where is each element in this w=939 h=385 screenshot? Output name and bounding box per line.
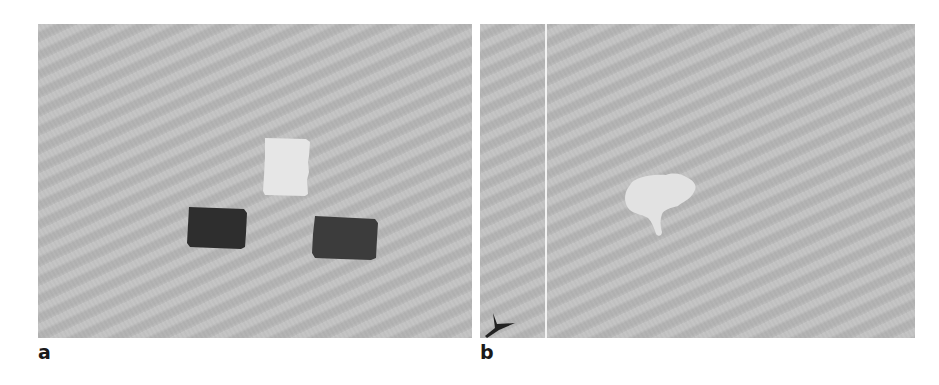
panel-label-b: b (480, 343, 494, 362)
dark-square-left (186, 205, 250, 251)
arrowhead-marker (483, 312, 517, 338)
light-irregular-blob (624, 172, 698, 238)
light-square (262, 136, 314, 198)
panel-a-image (38, 24, 472, 338)
vertical-white-line (545, 24, 547, 338)
panel-label-a: a (38, 343, 51, 362)
panel-b-image (480, 24, 915, 338)
dark-square-right (311, 214, 381, 262)
